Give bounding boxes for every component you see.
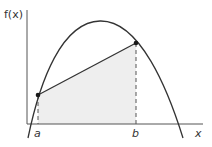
label-a: a — [34, 127, 41, 140]
point-b — [134, 41, 139, 46]
shaded-trapezoid — [38, 43, 136, 124]
trapezoid-rule-diagram: f(x) x a b — [0, 0, 212, 147]
x-axis-label: x — [194, 127, 202, 140]
y-axis-label: f(x) — [4, 8, 23, 21]
point-a — [36, 93, 41, 98]
label-b: b — [132, 127, 139, 140]
